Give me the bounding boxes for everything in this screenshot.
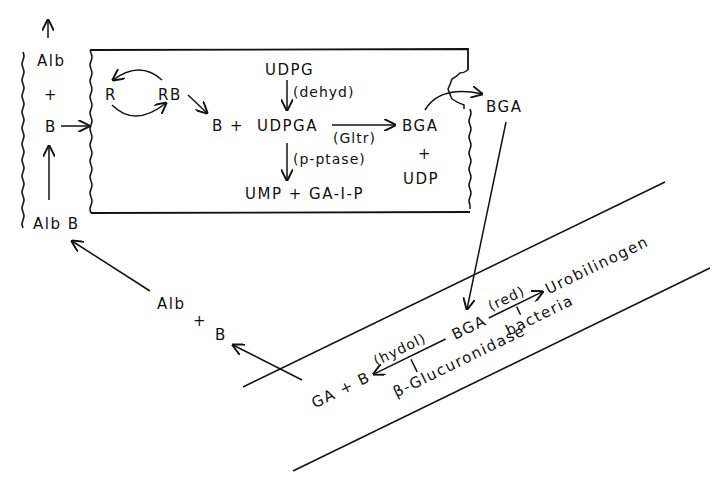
- label-p-ptase: (p-ptase): [293, 151, 366, 167]
- arrow-r-to-rb: [112, 103, 166, 116]
- label-dehyd: (dehyd): [293, 84, 354, 100]
- label-b-blood: B: [45, 118, 57, 136]
- label-plus-return: +: [193, 312, 207, 330]
- label-udpg: UDPG: [265, 61, 314, 79]
- label-alb-top: Alb: [37, 52, 65, 70]
- label-udp: UDP: [403, 170, 439, 188]
- label-urobilinogen: Urobilinogen: [542, 232, 651, 298]
- label-hydol: (hydol): [371, 330, 429, 369]
- bilirubin-metabolism-diagram: Alb + B Alb B R RB UDPG (dehyd) B + UDPG…: [0, 0, 724, 482]
- label-alb-return: Alb: [157, 295, 185, 313]
- label-rb: RB: [158, 86, 182, 104]
- label-ga-plus-b: GA + B: [309, 368, 374, 412]
- label-ump-ga1p: UMP + GA-I-P: [245, 185, 364, 203]
- label-plus-blood: +: [44, 86, 58, 104]
- arrow-bga-to-intestine: [467, 122, 506, 309]
- bacteria-connector: [517, 307, 521, 315]
- arrow-rb-to-r: [113, 70, 162, 80]
- label-udpga: UDPGA: [257, 117, 318, 135]
- label-alb-b: Alb B: [33, 215, 80, 233]
- label-r: R: [105, 86, 117, 104]
- label-gltr: (Gltr): [333, 130, 376, 146]
- label-bga-excreted: BGA: [486, 98, 522, 116]
- arrow-rb-to-b: [188, 95, 207, 113]
- arrow-alb-to-albb: [72, 241, 150, 291]
- glucuronidase-connector: [411, 359, 417, 372]
- label-plus-cell: +: [418, 145, 432, 163]
- blood-vessel-wall: [22, 52, 24, 228]
- label-b-plus: B +: [212, 117, 244, 135]
- label-bga-cell: BGA: [402, 117, 438, 135]
- label-b-return: B: [215, 326, 227, 344]
